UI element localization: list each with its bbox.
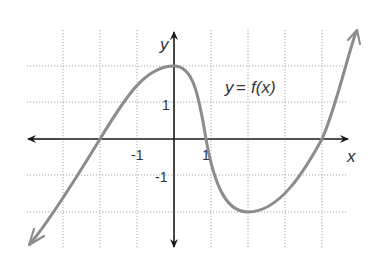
function-label-eq: = [236, 78, 246, 97]
y-tick-1: 1 [162, 97, 170, 113]
function-label-fx: f(x) [251, 78, 276, 97]
x-tick-neg1: -1 [131, 147, 144, 163]
x-tick-1: 1 [202, 147, 210, 163]
x-axis-label: x [346, 147, 356, 166]
function-label-y: y [224, 78, 235, 97]
y-axis-label: y [159, 35, 170, 54]
function-graph: y x -1 1 1 -1 y = f(x) [0, 0, 377, 259]
function-label: y = f(x) [224, 78, 276, 97]
y-tick-neg1: -1 [155, 169, 168, 185]
